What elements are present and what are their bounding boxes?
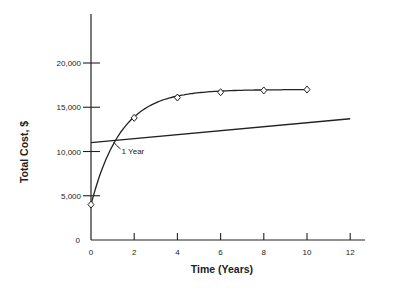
diamond-marker: [218, 89, 224, 96]
y-axis-label: Total Cost, $: [18, 121, 30, 183]
chart: 05,00010,00015,00020,000 024681012 Total…: [0, 0, 413, 294]
y-tick-label: 5,000: [61, 192, 82, 201]
y-tick-label: 10,000: [57, 148, 82, 157]
x-tick-label: 8: [262, 248, 267, 257]
x-tick-label: 2: [132, 248, 137, 257]
y-tick-label: 20,000: [57, 59, 82, 68]
svg-text:1 Year: 1 Year: [122, 147, 145, 156]
x-ticks: 024681012: [89, 233, 355, 257]
x-tick-label: 4: [175, 248, 180, 257]
annotation-1-year: 1 Year: [114, 142, 145, 156]
y-tick-label: 15,000: [57, 103, 82, 112]
diamond-marker: [304, 86, 310, 93]
x-tick-label: 10: [303, 248, 312, 257]
y-tick-label: 0: [76, 236, 81, 245]
x-axis-label: Time (Years): [191, 263, 253, 275]
y-ticks: 05,00010,00015,00020,000: [57, 59, 100, 245]
diamond-marker: [261, 87, 267, 94]
x-tick-label: 12: [346, 248, 355, 257]
straight-line: [91, 119, 350, 143]
x-tick-label: 6: [218, 248, 223, 257]
diamond-marker: [88, 201, 94, 208]
x-tick-label: 0: [89, 248, 94, 257]
